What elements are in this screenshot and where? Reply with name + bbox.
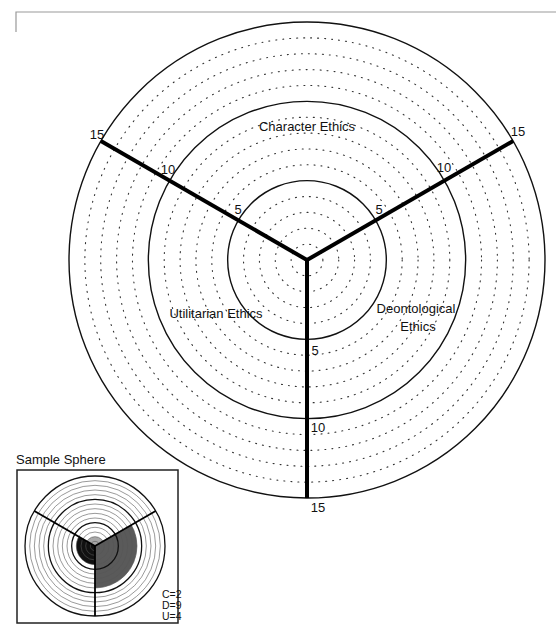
tick-bottom-10: 10 [311, 420, 325, 435]
sample-sphere [25, 476, 165, 616]
frame-line [16, 12, 556, 32]
sample-sphere-title: Sample Sphere [16, 452, 106, 467]
tick-left-10: 10 [161, 162, 175, 177]
axis-utilitarian-ethics [101, 141, 307, 260]
ethics-sphere-diagram: Character Ethics Deontological Ethics Ut… [0, 0, 556, 633]
tick-left-5: 5 [234, 202, 241, 217]
tick-right-15: 15 [511, 124, 525, 139]
character-ethics-label: Character Ethics [259, 119, 356, 134]
utilitarian-ethics-label: Utilitarian Ethics [169, 306, 263, 321]
tick-left-15: 15 [90, 127, 104, 142]
tick-right-10: 10 [437, 160, 451, 175]
deontological-ethics-label-line2: Ethics [400, 319, 436, 334]
tick-right-5: 5 [375, 202, 382, 217]
deontological-ethics-label-line1: Deontological [377, 301, 456, 316]
axis-character-ethics [307, 141, 513, 260]
sample-u-value: U=4 [162, 610, 182, 622]
tick-bottom-15: 15 [311, 500, 325, 515]
main-sphere [69, 22, 545, 498]
tick-bottom-5: 5 [311, 343, 318, 358]
